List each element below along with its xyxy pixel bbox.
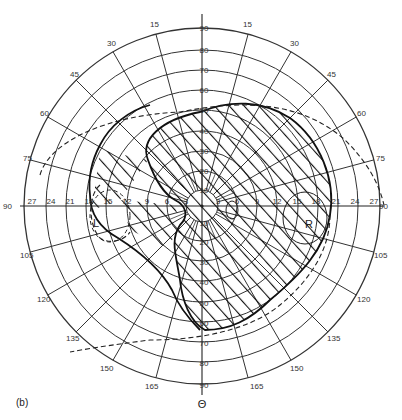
- visual-field-chart: 15 30 45 60 75 90 105 120 135 150 165 16…: [0, 0, 402, 420]
- svg-text:80: 80: [200, 46, 209, 55]
- svg-text:135: 135: [327, 334, 341, 343]
- svg-text:75: 75: [376, 154, 385, 163]
- svg-text:30: 30: [200, 258, 209, 267]
- svg-text:75: 75: [23, 154, 32, 163]
- svg-text:30: 30: [200, 147, 209, 156]
- panel-label: (b): [16, 397, 28, 408]
- svg-text:80: 80: [200, 359, 209, 368]
- svg-text:20: 20: [200, 167, 209, 176]
- svg-text:70: 70: [200, 66, 209, 75]
- svg-text:27: 27: [28, 197, 37, 206]
- svg-text:50: 50: [200, 299, 209, 308]
- svg-text:30: 30: [290, 39, 299, 48]
- svg-text:27: 27: [370, 197, 379, 206]
- svg-text:6: 6: [235, 197, 240, 206]
- svg-text:165: 165: [145, 382, 159, 391]
- svg-text:12: 12: [273, 197, 282, 206]
- svg-text:30: 30: [107, 39, 116, 48]
- svg-text:90: 90: [379, 202, 388, 211]
- svg-text:9: 9: [145, 197, 150, 206]
- ring-labels-top: 10 20 30 40 50 60 70 80 90: [200, 24, 209, 195]
- svg-text:24: 24: [47, 197, 56, 206]
- svg-text:90: 90: [3, 202, 12, 211]
- svg-text:60: 60: [200, 319, 209, 328]
- horizontal-labels-left: 3 6 9 12 15 18 21 24 27: [28, 197, 189, 206]
- svg-text:90: 90: [200, 381, 209, 390]
- svg-text:150: 150: [290, 364, 304, 373]
- svg-text:90: 90: [200, 24, 209, 33]
- svg-text:15: 15: [293, 197, 302, 206]
- svg-text:15: 15: [243, 20, 252, 29]
- svg-text:12: 12: [123, 197, 132, 206]
- center-point: [200, 204, 203, 207]
- svg-text:18: 18: [312, 197, 321, 206]
- svg-text:135: 135: [66, 334, 80, 343]
- svg-text:20: 20: [200, 238, 209, 247]
- svg-text:40: 40: [200, 127, 209, 136]
- svg-text:105: 105: [20, 251, 34, 260]
- svg-text:21: 21: [66, 197, 75, 206]
- svg-text:15: 15: [150, 20, 159, 29]
- svg-text:10: 10: [200, 186, 209, 195]
- svg-text:9: 9: [255, 197, 260, 206]
- svg-text:120: 120: [37, 295, 51, 304]
- svg-text:24: 24: [351, 197, 360, 206]
- svg-text:105: 105: [374, 251, 388, 260]
- svg-text:10: 10: [200, 219, 209, 228]
- svg-text:60: 60: [200, 86, 209, 95]
- eye-label-right: R: [305, 218, 313, 230]
- svg-text:45: 45: [327, 70, 336, 79]
- svg-text:3: 3: [184, 197, 189, 206]
- svg-text:70: 70: [200, 339, 209, 348]
- svg-text:165: 165: [250, 382, 264, 391]
- svg-text:18: 18: [85, 197, 94, 206]
- eye-label-left: L: [93, 217, 99, 229]
- svg-text:40: 40: [200, 278, 209, 287]
- svg-text:120: 120: [357, 295, 371, 304]
- svg-text:150: 150: [100, 364, 114, 373]
- svg-text:21: 21: [332, 197, 341, 206]
- svg-text:45: 45: [70, 70, 79, 79]
- bottom-theta-symbol: Θ: [198, 398, 207, 410]
- ring-labels-bottom: 10 20 30 40 50 60 70 80 90: [200, 219, 209, 390]
- svg-text:60: 60: [357, 109, 366, 118]
- svg-text:15: 15: [104, 197, 113, 206]
- hatched-defect-region: [89, 104, 331, 330]
- svg-text:3: 3: [216, 197, 221, 206]
- svg-text:6: 6: [165, 197, 170, 206]
- svg-text:60: 60: [40, 109, 49, 118]
- svg-text:50: 50: [200, 106, 209, 115]
